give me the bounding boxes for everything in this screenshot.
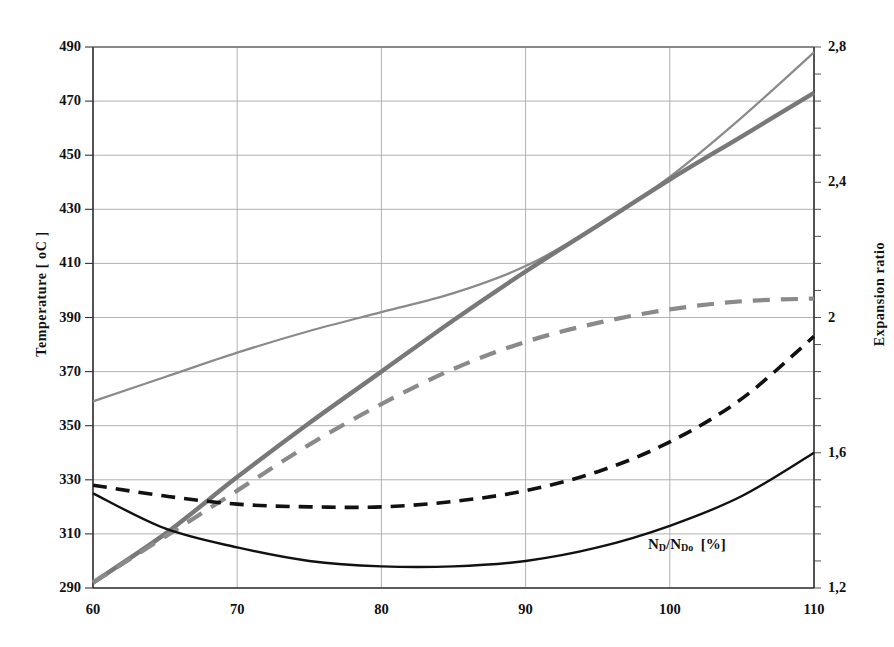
plot-area xyxy=(0,0,894,647)
series-line-temperature-black-dashed xyxy=(93,336,814,507)
right-axis-minor-ticks xyxy=(814,47,821,588)
left-axis-ticks xyxy=(85,47,93,588)
series-line-temperature-thin-gray-solid xyxy=(93,52,814,401)
series-line-temperature-thick-gray-solid xyxy=(93,93,814,583)
chart-figure: Temperature [ oC ] Expansion ratio ND/ND… xyxy=(0,0,894,647)
series-line-expansion-ratio-black-solid xyxy=(93,453,814,567)
